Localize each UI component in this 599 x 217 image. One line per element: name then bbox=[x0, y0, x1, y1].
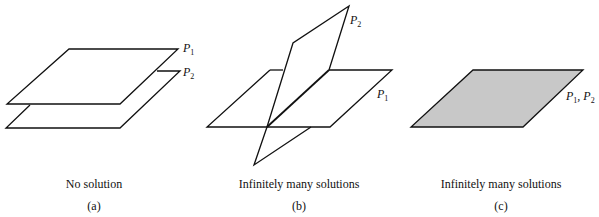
caption-c: Infinitely many solutions bbox=[401, 177, 599, 192]
label-b-p1: P1 bbox=[377, 87, 388, 103]
tag-c: (c) bbox=[401, 199, 599, 214]
caption-b: Infinitely many solutions bbox=[199, 177, 399, 192]
plane-p1-p2 bbox=[411, 70, 583, 127]
plane-p2-lower bbox=[254, 127, 311, 165]
panel-b-drawing bbox=[207, 6, 392, 165]
plane-p2-upper bbox=[267, 6, 349, 127]
caption-a: No solution bbox=[0, 177, 194, 192]
panel-c-drawing bbox=[411, 70, 583, 127]
plane-p1 bbox=[7, 49, 178, 104]
label-a-p2: P2 bbox=[183, 65, 194, 81]
tag-a: (a) bbox=[0, 199, 194, 214]
panel-a-drawing bbox=[6, 49, 180, 128]
plane-p1 bbox=[207, 70, 392, 127]
label-b-p2: P2 bbox=[350, 13, 361, 29]
label-c-p1-p2: P1, P2 bbox=[566, 89, 595, 105]
label-a-p1: P1 bbox=[183, 41, 194, 57]
tag-b: (b) bbox=[199, 199, 399, 214]
